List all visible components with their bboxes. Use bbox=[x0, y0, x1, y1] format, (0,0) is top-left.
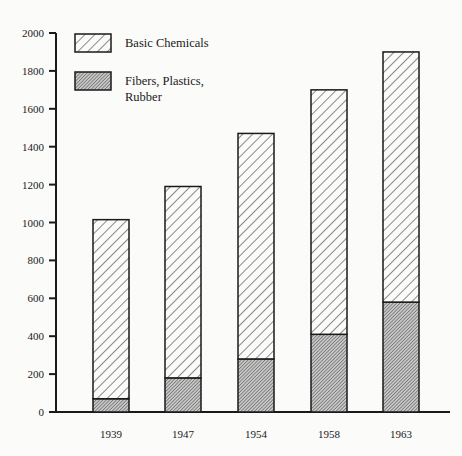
bar-segment-fibers-plastics-rubber bbox=[238, 359, 274, 412]
x-tick-label: 1963 bbox=[390, 428, 413, 440]
legend-label: Fibers, Plastics, bbox=[125, 74, 204, 88]
x-tick-label: 1939 bbox=[100, 428, 123, 440]
x-tick-label: 1954 bbox=[245, 428, 268, 440]
y-tick-label: 1800 bbox=[22, 65, 45, 77]
legend-label: Rubber bbox=[125, 90, 163, 104]
bars: 19391947195419581963 bbox=[93, 52, 419, 440]
bar-segment-basic-chemicals bbox=[383, 52, 419, 302]
bar-segment-fibers-plastics-rubber bbox=[93, 399, 129, 412]
y-tick-label: 1400 bbox=[22, 141, 45, 153]
legend: Basic ChemicalsFibers, Plastics,Rubber bbox=[75, 34, 209, 104]
bar-segment-basic-chemicals bbox=[165, 186, 201, 377]
y-tick-label: 200 bbox=[28, 368, 45, 380]
bar-segment-basic-chemicals bbox=[238, 133, 274, 359]
bar-segment-basic-chemicals bbox=[93, 220, 129, 399]
x-tick-label: 1958 bbox=[318, 428, 341, 440]
y-tick-label: 2000 bbox=[22, 27, 45, 39]
y-tick-label: 800 bbox=[28, 254, 45, 266]
legend-label: Basic Chemicals bbox=[125, 36, 209, 50]
y-tick-label: 1200 bbox=[22, 179, 45, 191]
y-tick-label: 600 bbox=[28, 292, 45, 304]
bar-segment-fibers-plastics-rubber bbox=[383, 302, 419, 412]
y-tick-label: 1000 bbox=[22, 217, 45, 229]
stacked-bar-chart: 0200400600800100012001400160018002000 19… bbox=[0, 0, 462, 456]
legend-swatch bbox=[75, 72, 111, 90]
y-tick-label: 0 bbox=[39, 406, 45, 418]
bar-segment-basic-chemicals bbox=[311, 90, 347, 334]
y-tick-label: 400 bbox=[28, 330, 45, 342]
y-tick-label: 1600 bbox=[22, 103, 45, 115]
x-tick-label: 1947 bbox=[172, 428, 195, 440]
bar-segment-fibers-plastics-rubber bbox=[165, 378, 201, 412]
legend-swatch bbox=[75, 34, 111, 52]
bar-segment-fibers-plastics-rubber bbox=[311, 334, 347, 412]
